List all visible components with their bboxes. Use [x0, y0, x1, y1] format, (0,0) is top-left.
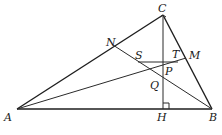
label-S: S — [135, 49, 143, 62]
label-C: C — [158, 2, 167, 15]
geometry-diagram: C A B H N M S T P Q — [0, 0, 222, 135]
label-H: H — [156, 111, 167, 124]
label-P: P — [164, 65, 173, 78]
right-angle-marker — [163, 103, 169, 109]
segment-AM — [17, 58, 186, 109]
label-A: A — [3, 111, 12, 124]
label-M: M — [188, 49, 201, 62]
label-N: N — [105, 36, 116, 49]
label-Q: Q — [150, 79, 159, 92]
label-B: B — [208, 111, 217, 124]
label-T: T — [172, 48, 181, 61]
